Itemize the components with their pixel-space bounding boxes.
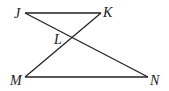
label-l: L: [53, 32, 62, 47]
label-m: M: [9, 73, 23, 88]
label-k: K: [102, 5, 113, 20]
segment-jn: [25, 13, 148, 77]
geometry-figure: J K L M N: [0, 0, 169, 91]
label-j: J: [14, 6, 21, 21]
segment-km: [25, 13, 101, 77]
label-n: N: [149, 73, 160, 88]
